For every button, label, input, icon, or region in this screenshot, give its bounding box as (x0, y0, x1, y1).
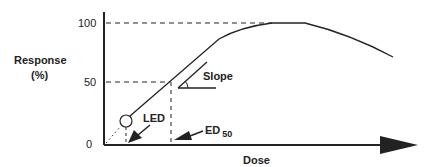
tick-0: 0 (86, 138, 92, 150)
slope-label: Slope (203, 70, 233, 82)
slope-angle-arc (185, 81, 188, 88)
x-axis-label: Dose (243, 154, 270, 166)
led-arrowhead (128, 130, 142, 143)
extrapolation-line (106, 126, 121, 143)
y-axis-label-line1: Response (14, 54, 67, 66)
tick-100: 100 (78, 17, 96, 29)
led-point (120, 115, 132, 127)
ed-label: ED (205, 124, 220, 136)
tick-50: 50 (84, 76, 96, 88)
x-axis-arrowhead (380, 136, 418, 154)
dose-response-diagram: 100 50 0 Response (%) Dose Slope LED ED5… (0, 0, 434, 167)
ed50-label: ED50 (205, 124, 232, 139)
ed50-arrow-shaft (190, 131, 203, 136)
response-curve (130, 23, 393, 116)
y-axis-label-line2: (%) (31, 69, 48, 81)
ed50-arrowhead (174, 131, 192, 140)
ed-subscript: 50 (222, 129, 232, 139)
led-arrow-shaft (138, 125, 150, 135)
led-label: LED (143, 112, 165, 124)
